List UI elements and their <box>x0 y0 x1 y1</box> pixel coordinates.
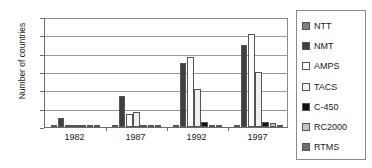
legend-item-label: RC2000 <box>314 122 347 132</box>
bar-amps-1982 <box>65 125 72 127</box>
bar-group <box>173 18 223 127</box>
bar-nmt-1997 <box>241 45 248 128</box>
bar-rtms-1992 <box>216 125 223 127</box>
bar-amps-1987 <box>126 114 133 127</box>
legend-item-ntt[interactable]: NTT <box>302 16 365 36</box>
bar-ntt-1997 <box>234 125 241 127</box>
bars-layer <box>45 18 288 127</box>
legend-item-rtms[interactable]: RTMS <box>302 137 365 157</box>
bar-c-450-1992 <box>201 122 208 128</box>
bar-c-450-1997 <box>262 122 269 128</box>
legend-item-tacs[interactable]: TACS <box>302 77 365 97</box>
x-axis-tick-label: 1997 <box>228 132 288 142</box>
legend-item-amps[interactable]: AMPS <box>302 56 365 76</box>
bar-group <box>51 18 101 127</box>
legend-swatch-icon <box>302 143 310 151</box>
bar-ntt-1992 <box>173 125 180 127</box>
bar-c-450-1982 <box>79 125 86 127</box>
bar-tacs-1982 <box>72 125 79 127</box>
bar-chart: Number of countries 0102030405060 198219… <box>0 0 372 168</box>
legend-item-c-450[interactable]: C-450 <box>302 97 365 117</box>
bar-rc2000-1987 <box>148 125 155 127</box>
bar-rc2000-1997 <box>270 123 277 127</box>
bar-rc2000-1992 <box>209 125 216 127</box>
bar-ntt-1982 <box>51 125 58 127</box>
legend-item-rc2000[interactable]: RC2000 <box>302 117 365 137</box>
bar-amps-1997 <box>248 34 255 128</box>
x-axis-tick-mark <box>228 127 229 131</box>
x-axis-tick-label: 1982 <box>45 132 105 142</box>
bar-rtms-1982 <box>94 125 101 127</box>
legend-item-nmt[interactable]: NMT <box>302 36 365 56</box>
bar-tacs-1992 <box>194 89 201 128</box>
bar-c-450-1987 <box>140 125 147 127</box>
legend-item-label: TACS <box>314 82 337 92</box>
bar-rtms-1997 <box>277 125 284 127</box>
bar-rc2000-1982 <box>87 125 94 127</box>
bar-amps-1992 <box>187 57 194 127</box>
x-axis-tick-label: 1992 <box>167 132 227 142</box>
plot-area <box>44 18 288 128</box>
legend-swatch-icon <box>302 103 310 111</box>
legend-swatch-icon <box>302 42 310 50</box>
legend-item-label: RTMS <box>314 142 339 152</box>
bar-ntt-1987 <box>112 125 119 127</box>
legend-swatch-icon <box>302 123 310 131</box>
bar-group <box>234 18 284 127</box>
bar-nmt-1992 <box>180 63 187 127</box>
bar-tacs-1987 <box>133 112 140 127</box>
bar-group <box>112 18 162 127</box>
legend: NTTNMTAMPSTACSC-450RC2000RTMS <box>296 10 366 160</box>
bar-rtms-1987 <box>155 125 162 127</box>
legend-swatch-icon <box>302 83 310 91</box>
legend-swatch-icon <box>302 62 310 70</box>
legend-item-label: NTT <box>314 21 332 31</box>
y-axis-title: Number of countries <box>17 1 27 121</box>
bar-nmt-1982 <box>58 118 65 127</box>
bar-nmt-1987 <box>119 96 126 127</box>
legend-item-label: C-450 <box>314 102 339 112</box>
legend-swatch-icon <box>302 22 310 30</box>
x-axis-tick-label: 1987 <box>106 132 166 142</box>
x-axis-tick-mark <box>106 127 107 131</box>
legend-item-label: AMPS <box>314 61 340 71</box>
legend-item-label: NMT <box>314 41 334 51</box>
y-axis-tick-mark <box>40 128 44 129</box>
x-axis-tick-mark <box>167 127 168 131</box>
bar-tacs-1997 <box>255 72 262 127</box>
